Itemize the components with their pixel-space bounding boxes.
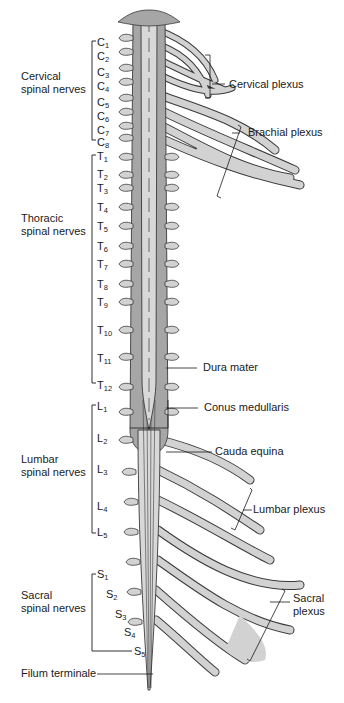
segment-label-s2: S2 <box>106 588 118 604</box>
skull-base <box>118 10 180 26</box>
segment-label-t3: T3 <box>97 182 108 198</box>
segment-label-s5: S5 <box>134 645 146 661</box>
lumbosacral-plexus <box>156 440 300 672</box>
lumbar-line1: Lumbar <box>21 453 86 466</box>
cervical-line1: Cervical <box>21 70 86 83</box>
conus-medullaris-label: Conus medullaris <box>204 401 289 414</box>
segment-label-t6: T6 <box>97 240 108 256</box>
thoracic-group-label: Thoracic spinal nerves <box>21 212 86 238</box>
segment-label-s1: S1 <box>97 568 109 584</box>
cervical-group-label: Cervical spinal nerves <box>21 70 86 96</box>
segment-label-t10: T10 <box>97 324 112 340</box>
sacral-group-label: Sacral spinal nerves <box>21 589 86 615</box>
segment-label-s4: S4 <box>124 626 136 642</box>
lumbar-line2: spinal nerves <box>21 466 86 479</box>
segment-label-l3: L3 <box>97 463 107 479</box>
segment-label-l5: L5 <box>97 526 107 542</box>
segment-label-t11: T11 <box>97 352 112 368</box>
sacral-plexus-line1: Sacral <box>293 592 325 605</box>
cervical-plexus-label: Cervical plexus <box>229 78 304 91</box>
segment-label-t1: T1 <box>97 150 108 166</box>
cervical-line2: spinal nerves <box>21 83 86 96</box>
segment-label-t9: T9 <box>97 296 108 312</box>
segment-label-t7: T7 <box>97 258 108 274</box>
segment-label-t12: T12 <box>97 379 112 395</box>
sacral-plexus-line2: plexus <box>293 605 325 618</box>
sacral-line2: spinal nerves <box>21 602 86 615</box>
sacral-line1: Sacral <box>21 589 86 602</box>
thoracic-line1: Thoracic <box>21 212 86 225</box>
dura-mater-label: Dura mater <box>203 361 258 374</box>
segment-label-t5: T5 <box>97 220 108 236</box>
segment-label-t4: T4 <box>97 201 108 217</box>
segment-label-l1: L1 <box>97 400 107 416</box>
segment-label-c2: C2 <box>97 50 109 66</box>
lumbar-plexus-label: Lumbar plexus <box>253 503 325 516</box>
segment-label-s3: S3 <box>115 608 127 624</box>
segment-label-c4: C4 <box>97 80 109 96</box>
segment-label-t8: T8 <box>97 278 108 294</box>
sacral-plexus-label: Sacral plexus <box>293 592 325 618</box>
spinal-nerves-diagram: Cervical spinal nerves Thoracic spinal n… <box>0 0 344 703</box>
thoracic-line2: spinal nerves <box>21 225 86 238</box>
lumbar-group-label: Lumbar spinal nerves <box>21 453 86 479</box>
filum-terminale-label: Filum terminale <box>21 667 96 680</box>
brachial-plexus-label: Brachial plexus <box>248 126 323 139</box>
segment-label-l2: L2 <box>97 432 107 448</box>
segment-label-l4: L4 <box>97 500 107 516</box>
cauda-equina-label: Cauda equina <box>215 445 284 458</box>
